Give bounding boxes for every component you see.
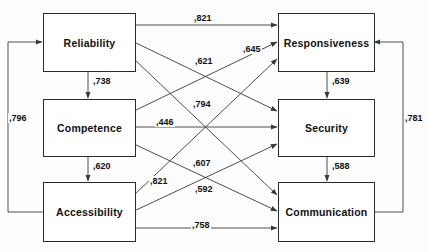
edge-label-comp-acc: ,620: [92, 161, 112, 171]
edge-line-rel-acc: [8, 42, 42, 212]
edge-label-comp-resp: ,794: [192, 99, 212, 109]
edge-label-rel-acc: ,796: [8, 113, 28, 123]
edge-line-resp-comm: [374, 42, 403, 212]
node-label-security: Security: [305, 122, 348, 134]
node-competence[interactable]: Competence: [43, 99, 136, 157]
node-label-reliability: Reliability: [64, 37, 116, 49]
path-diagram-canvas: Reliability Competence Accessibility Res…: [0, 0, 428, 252]
node-label-competence: Competence: [57, 122, 122, 134]
edge-label-rel-sec: ,645: [242, 44, 262, 54]
edge-label-acc-comm: ,758: [191, 220, 211, 230]
node-label-accessibility: Accessibility: [56, 206, 123, 218]
node-label-communication: Communication: [286, 206, 368, 218]
edge-label-resp-comm: ,781: [404, 113, 424, 123]
edge-label-rel-comp: ,738: [92, 76, 112, 86]
node-security[interactable]: Security: [278, 99, 375, 157]
node-communication[interactable]: Communication: [278, 182, 375, 242]
edge-label-rel-comm: ,621: [194, 56, 214, 66]
edge-label-resp-sec: ,639: [331, 76, 351, 86]
node-responsiveness[interactable]: Responsiveness: [278, 13, 375, 72]
edge-label-comp-comm: ,607: [192, 158, 212, 168]
edge-label-acc-resp: ,821: [149, 176, 169, 186]
edge-label-acc-sec: ,592: [194, 184, 214, 194]
node-reliability[interactable]: Reliability: [43, 13, 136, 72]
node-label-responsiveness: Responsiveness: [284, 37, 370, 49]
edge-label-sec-comm: ,588: [331, 161, 351, 171]
edge-label-rel-resp: ,821: [193, 13, 213, 23]
edge-label-comp-sec: ,446: [155, 117, 175, 127]
node-accessibility[interactable]: Accessibility: [43, 182, 136, 242]
